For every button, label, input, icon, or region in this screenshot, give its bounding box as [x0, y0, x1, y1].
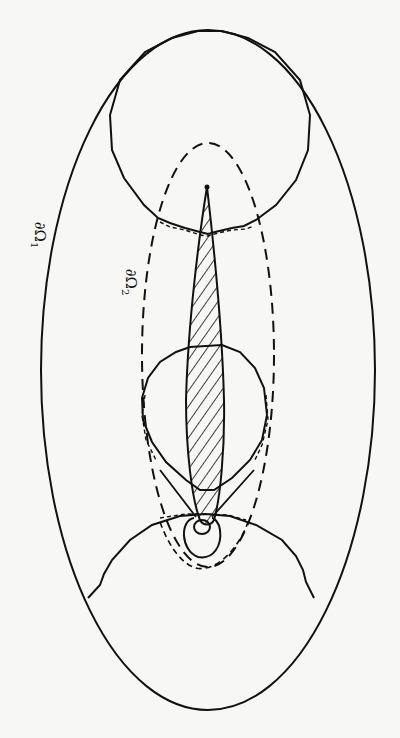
lower-arc [88, 514, 314, 598]
body-tip-dot [205, 185, 210, 190]
inner-boundary-subscript: 2 [120, 289, 131, 295]
outer-boundary-symbol: ∂Ω [31, 222, 49, 242]
upper-circle [110, 31, 310, 234]
tip-dashed-loop [160, 522, 248, 569]
hatched-body [186, 187, 224, 525]
outer-boundary-subscript: 1 [29, 242, 40, 248]
diagram-canvas [0, 0, 400, 738]
outer-boundary-label: ∂Ω1 [29, 222, 49, 249]
inner-boundary-label: ∂Ω2 [120, 269, 140, 296]
inner-boundary-symbol: ∂Ω [122, 269, 140, 289]
